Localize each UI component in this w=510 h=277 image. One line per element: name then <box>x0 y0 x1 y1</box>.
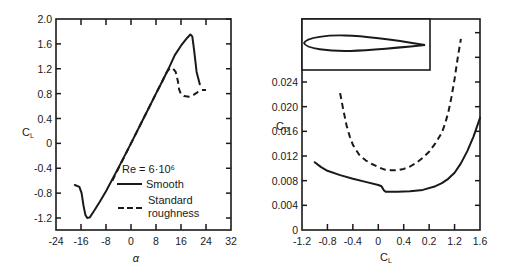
left-series-group <box>75 35 206 219</box>
left-x-tick-label: 8 <box>153 235 159 247</box>
left-x-tick-label: 16 <box>175 235 187 247</box>
right-y-tick-label: 0.020 <box>272 101 298 113</box>
right-x-tick-label: -1.2 <box>293 235 311 247</box>
right-y-tick-label: 0.024 <box>272 76 298 88</box>
series-line-smooth <box>75 35 200 219</box>
airfoil-inset-box <box>302 19 430 70</box>
right-y-tick-label: 0.008 <box>272 175 298 187</box>
right-x-tick-label: 0.4 <box>396 235 411 247</box>
left-y-tick-label: 1.6 <box>37 38 52 50</box>
left-x-tick-labels: -24-16-808162432 <box>48 235 237 247</box>
left-y-tick-label: 0.4 <box>37 113 52 125</box>
left-x-tick-label: 0 <box>128 235 134 247</box>
legend-label-rough-2: roughness <box>148 207 200 219</box>
left-x-tick-label: -24 <box>48 235 63 247</box>
left-x-tick-label: 32 <box>225 235 237 247</box>
left-x-tick-label: 24 <box>200 235 212 247</box>
left-x-tick-label: -16 <box>73 235 88 247</box>
left-x-tick-label: -8 <box>101 235 110 247</box>
right-y-tick-labels: 0.0240.0200.0160.0120.0080.0040 <box>272 76 298 236</box>
right-x-tick-labels: -1.2-0.8-0.400.40.21.21.6 <box>293 235 487 247</box>
right-x-tick-label: -0.4 <box>344 235 362 247</box>
legend-label-rough-1: Standard <box>148 194 193 206</box>
legend-label-smooth: Smooth <box>146 178 184 190</box>
series-line-smooth <box>315 118 480 192</box>
left-y-tick-labels: 2.01.61.20.80.40-0.4-0.8-1.2 <box>34 13 52 224</box>
airfoil-inset <box>302 19 430 70</box>
left-y-tick-label: 0.8 <box>37 88 52 100</box>
right-x-axis-label: CL <box>380 251 392 264</box>
legend-title: Re = 6·10⁶ <box>122 163 175 175</box>
right-x-tick-label: 0 <box>375 235 381 247</box>
legend: Re = 6·10⁶ Smooth Standard roughness <box>117 163 200 219</box>
left-x-axis-label: α <box>133 252 140 264</box>
left-y-tick-label: 2.0 <box>37 13 52 25</box>
left-y-axis-label: CL <box>22 126 34 139</box>
drag-polar-chart: 0.0240.0200.0160.0120.0080.0040 -1.2-0.8… <box>272 19 488 264</box>
left-y-tick-label: -1.2 <box>34 212 52 224</box>
left-y-tick-label: 1.2 <box>37 63 52 75</box>
left-y-tick-label: -0.4 <box>34 162 52 174</box>
lift-curve-chart: 2.01.61.20.80.40-0.4-0.8-1.2 -24-16-8081… <box>22 13 237 264</box>
right-x-tick-label: 0.2 <box>422 235 437 247</box>
right-y-tick-label: 0.004 <box>272 199 298 211</box>
left-y-tick-label: 0 <box>46 137 52 149</box>
right-y-tick-label: 0.012 <box>272 150 298 162</box>
right-x-tick-label: -0.8 <box>318 235 336 247</box>
left-y-tick-label: -0.8 <box>34 187 52 199</box>
right-x-tick-label: 1.6 <box>473 235 488 247</box>
figure: 2.01.61.20.80.40-0.4-0.8-1.2 -24-16-8081… <box>0 0 510 277</box>
right-y-axis-label: CD <box>276 120 289 133</box>
right-x-tick-label: 1.2 <box>447 235 462 247</box>
